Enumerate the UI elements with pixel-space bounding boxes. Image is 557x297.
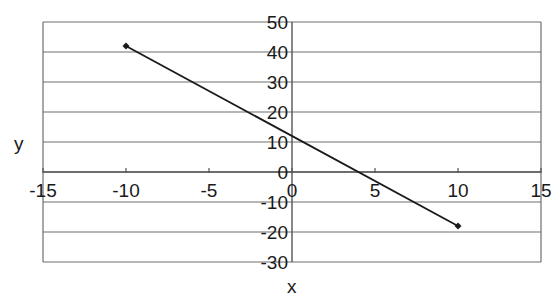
x-tick-label: -5 (201, 180, 218, 201)
x-axis-label: x (287, 276, 297, 297)
y-tick-label: -20 (261, 222, 288, 243)
y-tick-label: 10 (267, 132, 288, 153)
x-tick-label: 0 (287, 180, 298, 201)
x-tick-label: -10 (112, 180, 139, 201)
x-tick-label: 10 (447, 180, 468, 201)
y-tick-label: 50 (267, 12, 288, 33)
x-tick-labels: -15-10-5051015 (29, 180, 551, 201)
y-tick-label: 40 (267, 42, 288, 63)
data-point-marker (455, 223, 462, 230)
data-point-marker (123, 43, 130, 50)
y-axis-label: y (14, 133, 24, 154)
line-chart: 50403020100-10-20-30 -15-10-5051015 y x (0, 0, 557, 297)
y-tick-label: -10 (261, 192, 288, 213)
x-tick-label: -15 (29, 180, 56, 201)
y-tick-label: 20 (267, 102, 288, 123)
y-tick-label: -30 (261, 252, 288, 273)
x-tick-label: 15 (530, 180, 551, 201)
y-tick-label: 30 (267, 72, 288, 93)
